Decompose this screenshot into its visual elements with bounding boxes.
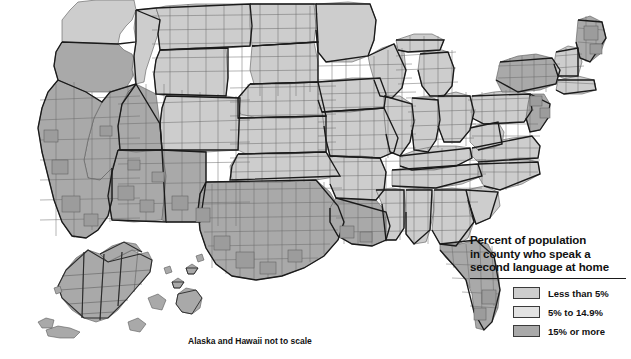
legend-items: Less than 5% 5% to 14.9% 15% or more — [470, 284, 628, 341]
legend-title-line-2: in county who speak a — [470, 248, 628, 262]
legend-swatch-15-or-more — [513, 325, 540, 337]
legend-label-less-than-5: Less than 5% — [548, 288, 609, 299]
legend-item-5-to-14-9: 5% to 14.9% — [513, 303, 628, 322]
legend-label-15-or-more: 15% or more — [548, 326, 605, 337]
legend-swatch-5-to-14-9 — [513, 306, 540, 318]
legend-item-less-than-5: Less than 5% — [513, 284, 628, 303]
map-figure: Percent of population in county who spea… — [0, 0, 631, 359]
legend-title: Percent of population in county who spea… — [470, 234, 628, 275]
map-inset-hawaii — [164, 254, 204, 314]
legend-title-line-3: second language at home — [470, 261, 628, 275]
map-caption: Alaska and Hawaii not to scale — [188, 336, 312, 346]
map-inset-alaska — [38, 242, 166, 338]
legend-title-line-1: Percent of population — [470, 234, 628, 248]
legend-item-15-or-more: 15% or more — [513, 322, 628, 341]
legend-label-5-to-14-9: 5% to 14.9% — [548, 307, 603, 318]
map-legend: Percent of population in county who spea… — [470, 234, 628, 341]
legend-swatch-less-than-5 — [513, 287, 540, 299]
legend-divider — [470, 278, 626, 279]
